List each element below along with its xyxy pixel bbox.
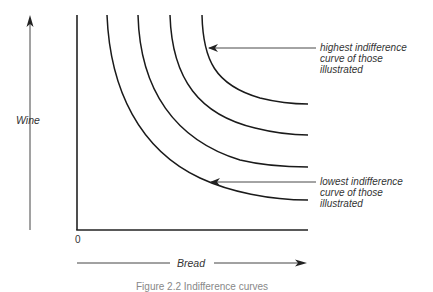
indifference-curve-1-lowest — [107, 15, 308, 200]
indifference-curves — [107, 15, 308, 200]
lowest-curve-annotation: lowest indifference curve of those illus… — [320, 176, 403, 209]
x-axis-label: Bread — [177, 257, 205, 269]
figure-caption: Figure 2.2 Indifference curves — [136, 281, 268, 292]
origin-label: 0 — [75, 234, 81, 245]
indifference-curve-4-highest — [202, 15, 308, 104]
indifference-curve-2 — [138, 15, 308, 167]
y-axis-label: Wine — [16, 114, 40, 126]
highest-curve-annotation: highest indifference curve of those illu… — [320, 42, 407, 75]
indifference-curve-3 — [170, 15, 308, 135]
